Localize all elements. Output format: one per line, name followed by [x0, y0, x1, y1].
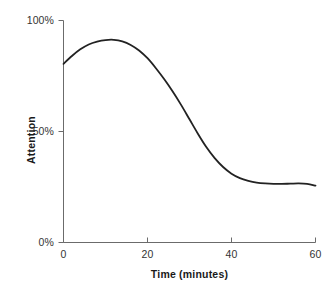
x-axis-tick-label-40: 40: [217, 248, 246, 260]
x-axis-title: Time (minutes): [63, 268, 316, 280]
y-axis-tick-label-0: 0%: [4, 236, 54, 248]
x-axis-tick-label-0: 0: [49, 248, 78, 260]
attention-over-time-chart: 100% 50% 0% 0 20 40 60 Attention Time (m…: [0, 0, 332, 295]
y-axis-tick-label-100: 100%: [4, 14, 54, 26]
x-axis-tick-label-20: 20: [133, 248, 162, 260]
attention-curve: [64, 40, 316, 186]
y-axis-title: Attention: [25, 116, 37, 164]
x-axis-tick-label-60: 60: [301, 248, 330, 260]
